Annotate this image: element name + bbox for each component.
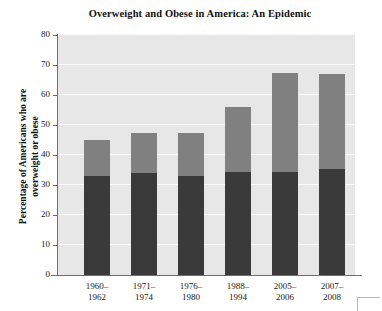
chart-figure: Overweight and Obese in America: An Epid… <box>0 0 382 311</box>
x-tick-label-line-2: 2008 <box>305 292 359 303</box>
y-tick-label: 30 <box>16 179 50 189</box>
x-tick-label: 1988–1994 <box>211 281 265 303</box>
x-tick-label-line-1: 1971– <box>117 281 171 292</box>
y-tick-label: 10 <box>16 239 50 249</box>
gridline <box>58 124 355 125</box>
y-tick-mark <box>53 95 57 96</box>
x-tick-label-line-2: 1994 <box>211 292 265 303</box>
bar-segment-overweight[interactable] <box>225 107 251 172</box>
bar-segment-overweight[interactable] <box>319 74 345 169</box>
bar-segment-overweight[interactable] <box>272 73 298 172</box>
y-tick-label: 80 <box>16 29 50 39</box>
bar-segment-overweight[interactable] <box>84 140 110 176</box>
x-tick-label: 1960–1962 <box>70 281 124 303</box>
y-tick-mark <box>53 35 57 36</box>
y-tick-mark <box>53 125 57 126</box>
x-tick-label: 2007–2008 <box>305 281 359 303</box>
y-tick-label: 40 <box>16 149 50 159</box>
y-tick-mark <box>53 155 57 156</box>
bar-segment-overweight[interactable] <box>178 133 204 177</box>
x-tick-label-line-1: 2007– <box>305 281 359 292</box>
x-tick-label-line-1: 2005– <box>258 281 312 292</box>
x-tick-label-line-2: 1974 <box>117 292 171 303</box>
y-axis-line <box>57 34 58 276</box>
y-tick-label: 0 <box>16 269 50 279</box>
x-tick-label: 2005–2006 <box>258 281 312 303</box>
gridline <box>58 64 355 65</box>
gridline <box>58 94 355 95</box>
bar-segment-overweight[interactable] <box>131 133 157 174</box>
bar-segment-obese[interactable] <box>272 172 298 276</box>
x-tick-label-line-1: 1976– <box>164 281 218 292</box>
x-tick-label: 1971–1974 <box>117 281 171 303</box>
y-tick-label: 70 <box>16 59 50 69</box>
y-tick-mark <box>53 245 57 246</box>
bar-segment-obese[interactable] <box>225 172 251 276</box>
x-tick-label-line-2: 1980 <box>164 292 218 303</box>
bar-segment-obese[interactable] <box>131 173 157 275</box>
x-tick-label-line-1: 1988– <box>211 281 265 292</box>
y-tick-label: 50 <box>16 119 50 129</box>
y-tick-mark <box>53 65 57 66</box>
x-tick-label-line-1: 1960– <box>70 281 124 292</box>
chart-title: Overweight and Obese in America: An Epid… <box>40 8 360 19</box>
page-corner-mark <box>357 297 380 311</box>
bar-segment-obese[interactable] <box>84 176 110 275</box>
x-tick-label-line-2: 2006 <box>258 292 312 303</box>
y-tick-label: 60 <box>16 89 50 99</box>
bar-segment-obese[interactable] <box>178 176 204 275</box>
x-axis-line <box>51 275 362 276</box>
y-tick-label: 20 <box>16 209 50 219</box>
plot-area <box>58 35 355 275</box>
y-tick-mark <box>53 215 57 216</box>
y-tick-mark <box>53 185 57 186</box>
gridline <box>58 34 355 35</box>
x-tick-label: 1976–1980 <box>164 281 218 303</box>
y-tick-mark <box>53 275 57 276</box>
x-tick-label-line-2: 1962 <box>70 292 124 303</box>
bar-segment-obese[interactable] <box>319 169 345 276</box>
